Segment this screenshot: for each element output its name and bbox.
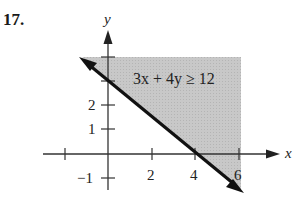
x-axis-label: x [284,145,292,161]
y-axis-label: y [102,11,111,27]
inequality-graph: y x 3x + 4y ≥ 12 2 4 6 1 2 −1 [0,0,300,204]
x-tick-label-4: 4 [190,167,198,183]
x-axis-arrow-icon [266,150,280,159]
x-tick-label-2: 2 [147,167,155,183]
inequality-label: 3x + 4y ≥ 12 [133,70,215,88]
x-axis [43,148,280,160]
x-tick-label-6: 6 [234,167,242,183]
y-tick-label-2: 2 [88,97,96,113]
y-axis [101,30,115,190]
y-tick-label-1: 1 [88,121,96,137]
y-tick-label-neg1: −1 [77,170,93,186]
y-axis-arrow-icon [104,30,113,44]
